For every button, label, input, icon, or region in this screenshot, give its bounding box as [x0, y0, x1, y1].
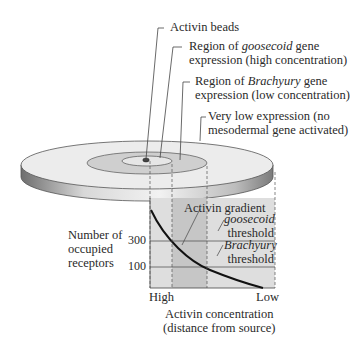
- x-axis-label: Activin concentration (distance from sou…: [163, 307, 275, 335]
- x-tick-low: Low: [256, 291, 279, 305]
- y-axis-label: Number of occupied receptors: [68, 228, 123, 270]
- goosecoid-threshold-label: goosecoid threshold: [224, 213, 274, 240]
- callout-very-low-expression: Very low expression (no mesodermal gene …: [208, 110, 348, 137]
- x-tick-high: High: [149, 291, 174, 305]
- brachyury-threshold-label: Brachyury threshold: [224, 239, 274, 266]
- y-tick-300: 300: [128, 234, 146, 248]
- callout-activin-beads: Activin beads: [170, 21, 239, 35]
- callout-goosecoid-region: Region of goosecoid gene expression (hig…: [189, 40, 347, 67]
- callout-brachyury-region: Region of Brachyury gene expression (low…: [195, 75, 350, 102]
- y-tick-100: 100: [128, 260, 146, 274]
